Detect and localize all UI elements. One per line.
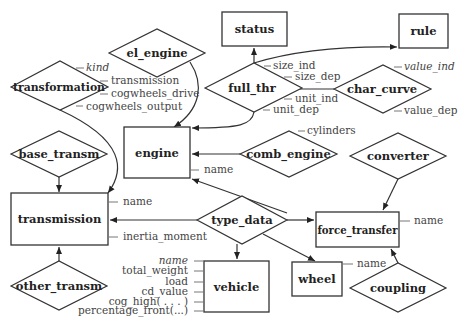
relationship-coupling[interactable]: coupling [350, 263, 446, 312]
attribute-cogwheels-output: cogwheels_output [86, 100, 183, 113]
attributes-wheel: name [342, 257, 386, 269]
relationship-comb-engine[interactable]: comb_engine [240, 131, 337, 177]
entity-wheel-label: wheel [297, 272, 336, 286]
relationship-char-curve-label: char_curve [347, 82, 417, 97]
er-diagram: status rule engine transmission force_tr… [0, 0, 460, 329]
attributes-transmission: name inertia_moment [108, 195, 208, 243]
attribute-inertia-moment: inertia_moment [123, 230, 208, 243]
edge-full-thr-engine [192, 112, 254, 128]
relationship-comb-engine-label: comb_engine [246, 147, 330, 162]
relationship-type-data-label: type_data [211, 213, 273, 228]
attribute-force-transfer-name: name [414, 214, 443, 226]
entity-status[interactable]: status [222, 12, 287, 46]
attribute-transmission: transmission [111, 74, 179, 86]
attribute-transmission-name: name [123, 195, 152, 207]
attributes-comb-engine: cylinders [298, 124, 356, 136]
relationship-converter[interactable]: converter [350, 133, 446, 179]
attribute-unit-dep: unit_dep [273, 103, 319, 116]
relationship-base-transm-label: base_transm [19, 147, 100, 162]
attribute-wheel-name: name [357, 257, 386, 269]
attributes-engine: name [190, 163, 233, 175]
attribute-cylinders: cylinders [307, 124, 356, 136]
relationship-other-transm[interactable]: other_transm [11, 261, 107, 310]
attribute-value-ind: value_ind [404, 60, 455, 73]
entity-force-transfer[interactable]: force_transfer [316, 212, 399, 247]
relationship-converter-label: converter [367, 149, 430, 163]
entity-status-label: status [235, 22, 274, 36]
relationship-type-data[interactable]: type_data [197, 196, 287, 244]
entity-force-transfer-label: force_transfer [318, 223, 399, 238]
entity-vehicle[interactable]: vehicle [204, 261, 269, 312]
relationship-transformation-label: transformation [13, 80, 106, 94]
attribute-kind: kind [86, 61, 109, 73]
attribute-percentage-front: percentage_front(...) [78, 304, 188, 317]
attribute-size-dep: size_dep [295, 70, 341, 83]
attributes-force-transfer: name [399, 214, 443, 226]
entity-rule[interactable]: rule [399, 14, 448, 48]
relationship-el-engine[interactable]: el_engine [109, 29, 205, 77]
relationship-el-engine-label: el_engine [126, 46, 187, 61]
entity-transmission[interactable]: transmission [11, 193, 108, 245]
relationship-full-thr-label: full_thr [228, 81, 276, 96]
edge-converter-force-transfer [383, 179, 398, 210]
relationship-other-transm-label: other_transm [16, 279, 102, 294]
entity-engine[interactable]: engine [124, 127, 190, 178]
entity-vehicle-label: vehicle [213, 280, 259, 294]
entity-rule-label: rule [410, 24, 436, 38]
attribute-cogwheels-drive: cogwheels_drive [111, 87, 199, 100]
relationship-base-transm[interactable]: base_transm [11, 131, 107, 177]
entity-transmission-label: transmission [18, 212, 102, 226]
edge-coupling-force-transfer [391, 249, 398, 263]
entity-engine-label: engine [135, 146, 179, 160]
relationship-coupling-label: coupling [370, 281, 426, 295]
attribute-engine-name: name [204, 163, 233, 175]
attribute-value-dep: value_dep [403, 104, 458, 117]
entity-wheel[interactable]: wheel [292, 262, 342, 296]
edge-type-data-wheel [263, 234, 315, 261]
